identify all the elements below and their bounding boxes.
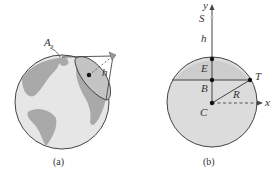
panel-b: y S h E B T R C x (b) <box>167 0 270 168</box>
label-x: x <box>264 96 270 108</box>
label-y: y <box>202 0 208 11</box>
label-c: C <box>200 106 208 118</box>
y-axis-arrow <box>210 4 215 10</box>
label-e: E <box>200 62 208 74</box>
caption-b: (b) <box>203 156 215 168</box>
label-height-a: h <box>102 66 108 78</box>
label-satellite-a: As <box>43 36 54 50</box>
point-s <box>210 15 213 18</box>
label-t: T <box>255 70 262 82</box>
label-s: S <box>199 12 205 24</box>
caption-a: (a) <box>53 156 64 168</box>
label-b: B <box>201 82 208 94</box>
panel-a: As h (a) <box>15 36 116 168</box>
figure: As h (a) y S h E B T R C x (b) <box>0 0 277 172</box>
x-axis-arrow <box>257 101 263 106</box>
label-r: R <box>232 88 240 100</box>
point-b <box>210 78 214 82</box>
point-t <box>248 78 252 82</box>
point-e <box>210 57 214 61</box>
label-h: h <box>201 32 207 44</box>
point-c <box>210 101 214 105</box>
